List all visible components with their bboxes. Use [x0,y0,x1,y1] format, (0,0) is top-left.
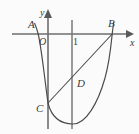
x-axis-label: x [130,38,134,48]
point-label-a: A [28,19,35,30]
figure-canvas [0,0,139,134]
geometry-figure: y x O 1 A B C D [0,0,139,134]
chord-cb-segment [48,34,112,103]
y-axis-arrow-icon [44,9,52,18]
x-tick-label-1: 1 [73,37,78,47]
y-axis-label: y [40,8,44,18]
point-label-b: B [108,18,115,29]
point-label-c: C [36,103,43,114]
point-label-d: D [77,78,85,89]
origin-label: O [39,37,46,47]
